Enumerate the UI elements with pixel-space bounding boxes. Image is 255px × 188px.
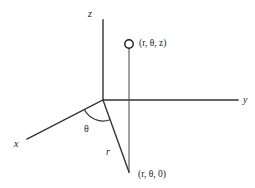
cylindrical-coordinates-figure — [0, 0, 255, 188]
point-label-lower: (r, θ, 0) — [138, 170, 166, 180]
figure-background — [0, 0, 255, 188]
point-label-upper: (r, θ, z) — [139, 39, 166, 49]
length-label-r: r — [106, 147, 110, 157]
axis-label-y: y — [243, 95, 247, 105]
axis-label-x: x — [14, 139, 18, 149]
angle-label-theta: θ — [84, 124, 89, 134]
axis-label-z: z — [88, 9, 92, 19]
